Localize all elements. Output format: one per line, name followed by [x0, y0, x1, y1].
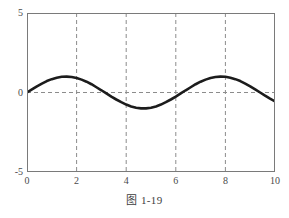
plot-area	[27, 13, 275, 172]
figure-caption: 图 1-19	[0, 193, 289, 207]
x-tick-label: 0	[12, 176, 42, 186]
grid-lines	[27, 13, 275, 172]
x-tick-label: 8	[210, 176, 240, 186]
y-tick-label: 0	[2, 88, 23, 98]
y-tick-label: 5	[2, 8, 23, 18]
x-tick-label: 6	[161, 176, 191, 186]
figure-container: -505 0246810 图 1-19	[0, 0, 289, 218]
x-tick-label: 10	[260, 176, 289, 186]
x-tick-label: 2	[62, 176, 92, 186]
chart-canvas	[27, 13, 275, 172]
x-tick-label: 4	[111, 176, 141, 186]
